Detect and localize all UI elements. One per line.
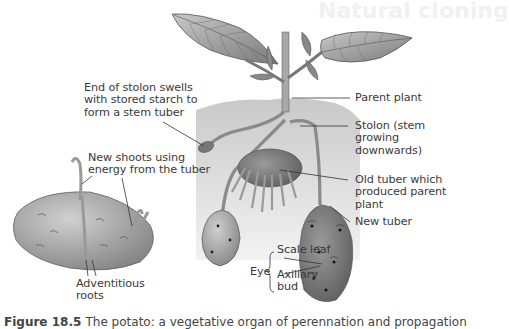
label-adventitious-roots: Adventitious roots bbox=[76, 278, 145, 303]
old-tuber bbox=[238, 149, 302, 187]
leaflet bbox=[302, 32, 311, 56]
main-stem bbox=[282, 32, 289, 112]
label-old-tuber: Old tuber which produced parent plant bbox=[355, 174, 446, 211]
caption-text: The potato: a vegetative organ of perenn… bbox=[85, 315, 466, 329]
label-stolon: Stolon (stem growing downwards) bbox=[355, 120, 425, 157]
figure-caption: Figure 18.5 The potato: a vegetative org… bbox=[4, 315, 467, 329]
leaf-left bbox=[172, 14, 278, 64]
label-eye: Eye bbox=[250, 266, 270, 278]
label-scale-leaf: Scale leaf bbox=[277, 244, 330, 256]
leaflet bbox=[267, 46, 273, 70]
leaf-right bbox=[321, 32, 412, 62]
label-new-shoots: New shoots using energy from the tuber bbox=[88, 152, 210, 177]
caption-number: Figure 18.5 bbox=[4, 315, 81, 329]
label-stolon-end: End of stolon swells with stored starch … bbox=[84, 82, 198, 119]
label-parent-plant: Parent plant bbox=[355, 92, 422, 104]
label-new-tuber: New tuber bbox=[355, 216, 412, 228]
label-axillary-bud: Axillary bud bbox=[277, 269, 318, 294]
